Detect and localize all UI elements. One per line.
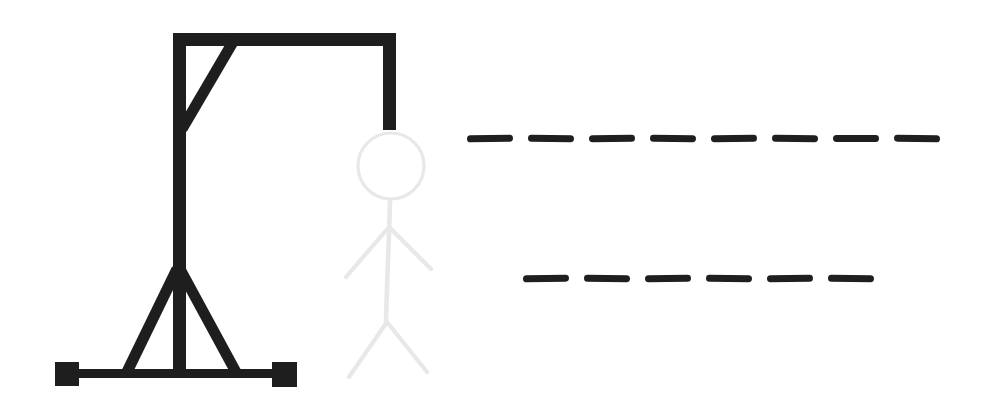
figure-body <box>386 201 390 322</box>
letter-blank-dash <box>650 135 696 143</box>
figure-left-arm <box>346 227 389 277</box>
letter-blank-dash <box>711 135 757 143</box>
letter-blank-dash <box>767 275 813 283</box>
letter-blank-dash <box>645 275 691 282</box>
letter-blank-dash <box>833 135 879 142</box>
letter-blank-dash <box>523 275 569 283</box>
letter-blank-dash <box>467 135 513 143</box>
gallows-beam <box>173 33 396 46</box>
gallows-diagonal-brace <box>182 42 233 129</box>
letter-blank-dash <box>584 275 630 283</box>
word-blanks <box>467 135 940 283</box>
word-row-1 <box>467 135 940 143</box>
hangman-scene <box>0 0 982 395</box>
figure-head <box>358 133 424 199</box>
hangman-figure <box>346 133 431 377</box>
hangman-drawing <box>0 0 982 395</box>
gallows-left-foot <box>55 362 79 386</box>
gallows-right-foot <box>272 362 297 387</box>
gallows-post <box>173 33 186 378</box>
gallows <box>55 33 396 387</box>
figure-left-leg <box>349 322 387 377</box>
gallows-rope <box>383 33 396 130</box>
gallows-triangle-right-leg <box>180 269 237 374</box>
figure-right-arm <box>389 227 431 269</box>
word-row-2 <box>523 275 874 283</box>
figure-right-leg <box>387 322 427 372</box>
gallows-triangle-left-leg <box>126 269 177 374</box>
letter-blank-dash <box>894 135 940 143</box>
letter-blank-dash <box>589 135 635 142</box>
letter-blank-dash <box>828 275 874 282</box>
letter-blank-dash <box>772 135 818 142</box>
letter-blank-dash <box>706 275 752 283</box>
letter-blank-dash <box>528 135 574 143</box>
